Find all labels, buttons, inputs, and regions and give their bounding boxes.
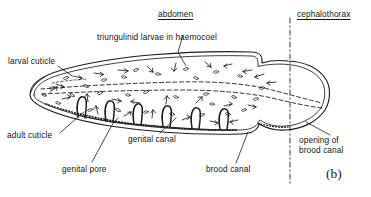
label-adult-cuticle: adult cuticle (7, 131, 52, 141)
region-label-abdomen: abdomen (158, 10, 193, 20)
label-genital-canal: genital canal (128, 135, 176, 145)
background (0, 0, 371, 197)
label-larval-cuticle: larval cuticle (8, 57, 55, 67)
label-genital-pore: genital pore (62, 165, 107, 175)
label-brood-canal: brood canal (206, 165, 250, 175)
anatomical-line-drawing (0, 0, 371, 197)
label-opening-of-brood-canal-line2: brood canal (299, 146, 343, 156)
figure-canvas: abdomen cephalothorax triungulinid larva… (0, 0, 371, 197)
panel-label: (b) (326, 166, 342, 182)
label-triungulinid-larvae-in-haemocoel: triungulinid larvae in haemocoel (97, 33, 217, 43)
region-label-cephalothorax: cephalothorax (297, 10, 350, 20)
